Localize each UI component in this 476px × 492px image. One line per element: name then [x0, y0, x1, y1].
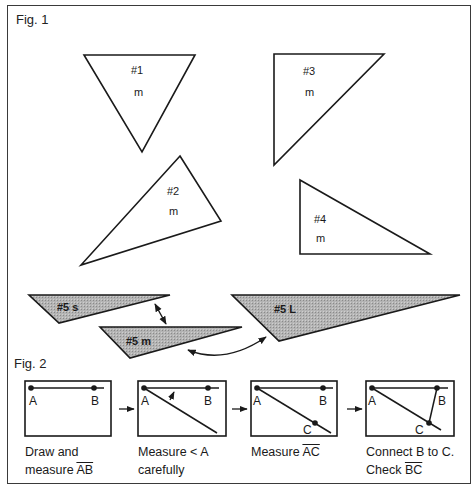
- triangle-2-size: m: [169, 205, 178, 217]
- svg-text:C: C: [303, 423, 312, 437]
- triangle-5-small: #5 s: [29, 295, 170, 323]
- triangle-5m-label: #5 m: [126, 335, 151, 347]
- svg-text:A: A: [141, 394, 149, 408]
- triangle-1-id: #1: [131, 64, 143, 76]
- triangle-5s-label: #5 s: [57, 301, 78, 313]
- triangle-2-id: #2: [167, 185, 179, 197]
- step-3-caption: Measure AC: [251, 443, 320, 461]
- svg-text:A: A: [253, 394, 261, 408]
- double-arrow-s-m: [155, 304, 166, 324]
- triangle-5-medium: #5 m: [100, 327, 242, 358]
- triangle-3-size: m: [305, 86, 314, 98]
- step-4-panel: A B C: [366, 381, 454, 437]
- step-2-panel: A B: [138, 381, 226, 436]
- svg-text:B: B: [319, 394, 327, 408]
- triangle-5L-label: #5 L: [274, 303, 296, 315]
- step-3-panel: A B C: [251, 381, 337, 437]
- step-1-panel: A B: [25, 381, 111, 436]
- triangle-3-id: #3: [303, 65, 315, 77]
- svg-text:A: A: [368, 394, 376, 408]
- triangle-4-id: #4: [314, 213, 326, 225]
- svg-text:C: C: [415, 423, 424, 437]
- svg-text:B: B: [204, 394, 212, 408]
- svg-text:B: B: [91, 394, 99, 408]
- diagram-canvas: #1 m #3 m #2 m #4 m #5 s #5 m #5 L: [0, 0, 476, 492]
- step-1-caption: Draw and measure AB: [25, 443, 93, 479]
- svg-text:A: A: [29, 394, 37, 408]
- double-arrow-m-L: [188, 337, 266, 355]
- triangle-4: #4 m: [300, 180, 430, 254]
- triangle-3: #3 m: [274, 54, 384, 165]
- svg-text:B: B: [438, 394, 446, 408]
- triangle-1: #1 m: [84, 55, 195, 152]
- step-2-caption: Measure < A carefully: [138, 443, 209, 479]
- triangle-1-size: m: [134, 86, 143, 98]
- fig2-label: Fig. 2: [14, 356, 47, 371]
- triangle-5-large: #5 L: [232, 295, 460, 341]
- step-4-caption: Connect B to C. Check BC: [366, 443, 454, 479]
- triangle-4-size: m: [316, 232, 325, 244]
- triangle-2: #2 m: [81, 156, 221, 265]
